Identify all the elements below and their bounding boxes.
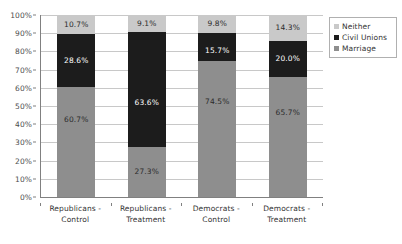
x-axis-category-line: Republicans - — [111, 203, 182, 214]
x-axis-category-line: Treatment — [252, 214, 323, 225]
bar-group: 14.3%20.0%65.7% — [253, 15, 324, 197]
legend-item[interactable]: Neither — [334, 21, 393, 32]
y-axis-tick-mark — [33, 106, 36, 107]
x-axis-tick-mark — [322, 203, 323, 206]
bar-segment-label: 60.7% — [64, 116, 88, 124]
y-axis-tick-mark — [33, 33, 36, 34]
y-axis-tick-label: 40% — [15, 120, 32, 129]
x-axis-category-label: Democrats -Control — [181, 203, 252, 225]
bar-segment-label: 15.7% — [205, 47, 229, 55]
x-axis-category-line: Republicans - — [40, 203, 111, 214]
y-axis-tick-mark — [33, 197, 36, 198]
bar-segment-label: 20.0% — [276, 55, 300, 63]
x-axis-category-line: Control — [40, 214, 111, 225]
bar-segment[interactable]: 9.8% — [198, 15, 236, 33]
x-axis-tick-mark — [181, 203, 182, 206]
bar-segment[interactable]: 65.7% — [269, 77, 307, 197]
legend-label: Neither — [342, 22, 370, 31]
y-axis-tick-mark — [33, 87, 36, 88]
bar-segment[interactable]: 74.5% — [198, 61, 236, 197]
bar-segment[interactable]: 63.6% — [128, 32, 166, 148]
bar-segment[interactable]: 27.3% — [128, 147, 166, 197]
bar-segment[interactable]: 9.1% — [128, 15, 166, 32]
bar-segment-label: 9.8% — [208, 20, 227, 28]
bar-segment-label: 74.5% — [205, 98, 229, 106]
x-axis-category-line: Democrats - — [252, 203, 323, 214]
legend-swatch-icon — [334, 46, 339, 51]
bar-segment[interactable]: 28.6% — [57, 34, 95, 86]
y-axis-tick-label: 10% — [15, 174, 32, 183]
y-axis-tick-label: 100% — [10, 11, 32, 20]
stacked-bar-chart: 100%90%80%70%60%50%40%30%20%10%0% 10.7%2… — [0, 0, 402, 244]
y-axis-tick-mark — [33, 178, 36, 179]
bar-group: 10.7%28.6%60.7% — [41, 15, 112, 197]
y-axis-tick-label: 0% — [20, 193, 32, 202]
y-axis-tick-label: 30% — [15, 138, 32, 147]
y-axis-tick-mark — [33, 51, 36, 52]
y-axis-tick-label: 50% — [15, 102, 32, 111]
bar-stack[interactable]: 9.1%63.6%27.3% — [128, 15, 166, 197]
x-axis-tick-mark — [252, 203, 253, 206]
legend-item[interactable]: Civil Unions — [334, 32, 393, 43]
bars-layer: 10.7%28.6%60.7%9.1%63.6%27.3%9.8%15.7%74… — [41, 15, 323, 197]
x-axis-category-label: Democrats -Treatment — [252, 203, 323, 225]
legend-label: Marriage — [342, 44, 376, 53]
bar-segment[interactable]: 20.0% — [269, 41, 307, 77]
y-axis: 100%90%80%70%60%50%40%30%20%10%0% — [0, 15, 36, 197]
y-axis-tick-label: 60% — [15, 83, 32, 92]
x-axis-category-label: Republicans -Treatment — [111, 203, 182, 225]
chart-legend: NeitherCivil UnionsMarriage — [329, 17, 397, 58]
y-axis-tick-label: 20% — [15, 156, 32, 165]
bar-segment-label: 27.3% — [135, 168, 159, 176]
bar-segment-label: 65.7% — [276, 110, 300, 118]
legend-label: Civil Unions — [342, 33, 387, 42]
legend-swatch-icon — [334, 24, 339, 29]
x-axis-tick-mark — [111, 203, 112, 206]
bar-segment-label: 10.7% — [64, 21, 88, 29]
bar-group: 9.1%63.6%27.3% — [112, 15, 183, 197]
x-axis: Republicans -ControlRepublicans -Treatme… — [40, 203, 322, 225]
bar-segment[interactable]: 15.7% — [198, 33, 236, 62]
bar-stack[interactable]: 10.7%28.6%60.7% — [57, 15, 95, 197]
bar-segment[interactable]: 60.7% — [57, 87, 95, 197]
bar-stack[interactable]: 14.3%20.0%65.7% — [269, 15, 307, 197]
x-axis-category-line: Treatment — [111, 214, 182, 225]
x-axis-category-line: Control — [181, 214, 252, 225]
y-axis-tick-mark — [33, 15, 36, 16]
bar-segment-label: 9.1% — [137, 20, 156, 28]
x-axis-tick-mark — [40, 203, 41, 206]
y-axis-tick-label: 90% — [15, 29, 32, 38]
bar-segment[interactable]: 10.7% — [57, 15, 95, 34]
bar-segment-label: 28.6% — [64, 57, 88, 65]
x-axis-category-line: Democrats - — [181, 203, 252, 214]
bar-segment-label: 63.6% — [135, 100, 159, 108]
bar-group: 9.8%15.7%74.5% — [182, 15, 253, 197]
y-axis-tick-label: 70% — [15, 65, 32, 74]
legend-item[interactable]: Marriage — [334, 43, 393, 54]
y-axis-tick-mark — [33, 142, 36, 143]
y-axis-tick-mark — [33, 69, 36, 70]
y-axis-tick-label: 80% — [15, 47, 32, 56]
plot-area: 10.7%28.6%60.7%9.1%63.6%27.3%9.8%15.7%74… — [40, 15, 323, 198]
y-axis-tick-mark — [33, 160, 36, 161]
x-axis-category-label: Republicans -Control — [40, 203, 111, 225]
bar-stack[interactable]: 9.8%15.7%74.5% — [198, 15, 236, 197]
y-axis-tick-mark — [33, 124, 36, 125]
bar-segment[interactable]: 14.3% — [269, 15, 307, 41]
legend-swatch-icon — [334, 35, 339, 40]
bar-segment-label: 14.3% — [276, 24, 300, 32]
